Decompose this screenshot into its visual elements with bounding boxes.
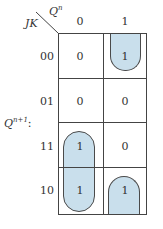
row-header-10: 10 xyxy=(38,184,54,197)
row-variable-label: JK xyxy=(25,17,38,30)
cell-01-1: 0 xyxy=(103,95,147,108)
output-label: Qn+1: xyxy=(4,116,32,130)
row-header-01: 01 xyxy=(38,95,54,108)
grid-hline xyxy=(59,167,146,168)
row-header-00: 00 xyxy=(38,50,54,63)
col-header-0: 0 xyxy=(72,15,88,28)
column-variable-label: Qn xyxy=(49,4,63,18)
cell-11-1: 0 xyxy=(103,140,147,153)
grid-hline xyxy=(59,78,146,79)
col-header-1: 1 xyxy=(117,15,133,28)
cell-00-0: 0 xyxy=(58,50,102,63)
cell-10-1: 1 xyxy=(103,184,147,197)
row-header-11: 11 xyxy=(38,140,54,153)
cell-11-0: 1 xyxy=(58,140,102,153)
grid-hline xyxy=(59,122,146,123)
cell-01-0: 0 xyxy=(58,95,102,108)
cell-00-1: 1 xyxy=(103,50,147,63)
cell-10-0: 1 xyxy=(58,184,102,197)
